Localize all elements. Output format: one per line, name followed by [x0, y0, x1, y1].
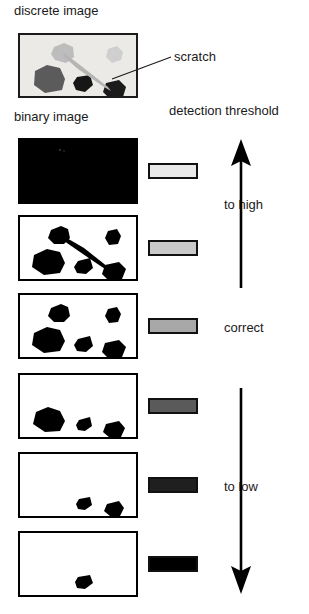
blob-bottom-right	[102, 262, 126, 279]
threshold-swatch-5	[148, 477, 198, 493]
blob-bottom-right	[104, 501, 124, 516]
binary-panel-2	[18, 215, 138, 281]
threshold-swatch-2	[148, 240, 198, 256]
binary-panel-4-content	[20, 375, 136, 437]
binary-panel-3	[18, 293, 138, 359]
discrete-image-label: discrete image	[14, 4, 99, 17]
blob-center	[74, 336, 93, 352]
blob-bottom-right	[103, 421, 125, 437]
blob-bottom-right	[102, 340, 126, 357]
figure-canvas: discrete image binary image detection th…	[0, 0, 309, 614]
blob-center	[76, 497, 92, 510]
blob-top-right	[105, 307, 121, 323]
arrow-up-to-high	[226, 136, 256, 294]
blob-left-large	[32, 249, 65, 275]
threshold-swatch-1	[148, 163, 198, 179]
blob-left-large	[32, 327, 65, 353]
threshold-swatch-6	[148, 556, 198, 572]
scratch-leader-line	[100, 46, 180, 88]
threshold-swatch-3	[148, 318, 198, 334]
arrow-down-to-low	[226, 386, 256, 598]
blob-center	[74, 258, 93, 274]
blob-top-right	[105, 229, 121, 245]
blob-center	[76, 417, 92, 431]
threshold-swatch-4	[148, 398, 198, 414]
detection-threshold-label: detection threshold	[169, 104, 279, 117]
binary-panel-3-content	[20, 295, 136, 357]
binary-image-label: binary image	[14, 110, 88, 123]
correct-label: correct	[224, 321, 264, 334]
blob-top-left	[48, 304, 70, 322]
blob-center	[75, 575, 93, 589]
binary-panel-1-content	[20, 140, 136, 202]
blob-left-large	[33, 407, 65, 432]
binary-panel-4	[18, 373, 138, 439]
binary-panel-5-content	[20, 454, 136, 516]
scratch-label: scratch	[174, 50, 216, 63]
binary-panel-6-content	[20, 533, 136, 595]
binary-panel-1	[18, 138, 138, 204]
binary-panel-6	[18, 531, 138, 597]
binary-panel-2-content	[20, 217, 136, 279]
binary-panel-5	[18, 452, 138, 518]
